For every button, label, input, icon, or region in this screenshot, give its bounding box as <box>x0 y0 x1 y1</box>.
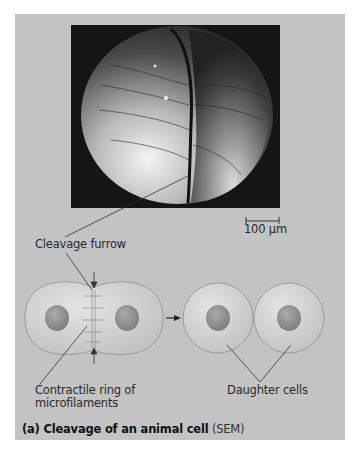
daughter-cell-1 <box>183 283 253 353</box>
diagram-overlay <box>0 0 356 449</box>
scale-bar-label: 100 µm <box>244 223 287 236</box>
dividing-cell <box>25 282 163 355</box>
caption-method: (SEM) <box>212 422 244 436</box>
caption-title: (a) Cleavage of an animal cell <box>22 422 208 436</box>
nucleus-right <box>115 305 139 331</box>
figure-caption: (a) Cleavage of an animal cell (SEM) <box>22 422 244 436</box>
contractile-ring-label-line2: microfilaments <box>35 397 118 410</box>
progression-arrow <box>166 315 181 321</box>
cleavage-furrow-label: Cleavage furrow <box>35 238 126 251</box>
nucleus-left <box>45 305 69 331</box>
furrow-leader-line <box>65 176 188 237</box>
daughter-cells-label: Daughter cells <box>227 384 308 397</box>
daughter-cell-2 <box>254 283 324 353</box>
